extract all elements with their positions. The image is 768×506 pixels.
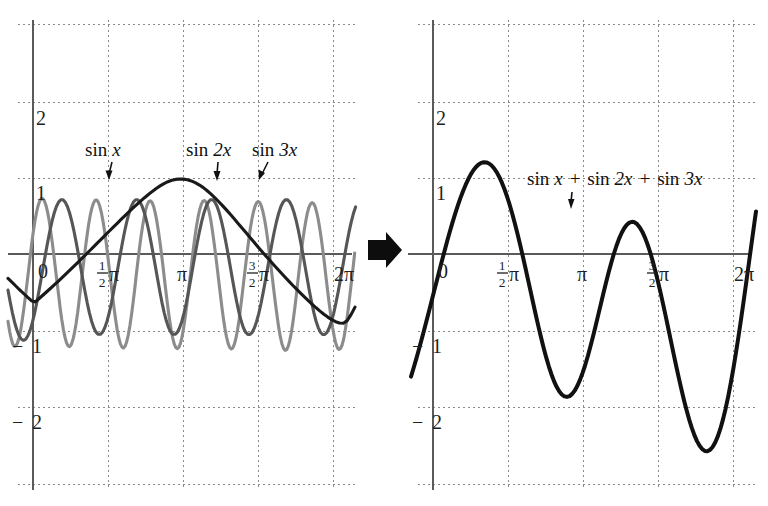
right-ytick-minus2: 2 [432, 411, 442, 433]
left-xtick-three-half-pi-symbol: π [259, 263, 269, 285]
right-panel: 2 1 − 1 − 2 0 1 2 π π 3 2 π 2π [408, 20, 757, 490]
annotation-sum-text: sinx+sin2x+sin3x [527, 168, 703, 189]
left-ytick-minus2-sign: − [12, 411, 23, 433]
right-xtick-pi: π [577, 263, 587, 285]
left-ytick-minus2: 2 [32, 411, 42, 433]
left-ytick-minus1-sign: − [12, 335, 23, 357]
right-xtick-half-pi-denominator: 2 [499, 275, 506, 290]
left-xtick-half-pi-numerator: 1 [99, 258, 106, 273]
annotation-sin-3x: sin3x [252, 139, 298, 180]
right-xtick-three-half-pi-numerator: 3 [649, 258, 656, 273]
right-ytick-minus2-sign: − [412, 411, 423, 433]
right-ytick-minus1: 1 [432, 335, 442, 357]
left-panel: 2 1 − 1 − 2 0 1 2 π π 3 2 π 2π [8, 20, 357, 490]
annotation-sin-x-text: sinx [85, 139, 121, 160]
left-vertical-gridlines [108, 20, 333, 490]
harmonics-figure-svg: 2 1 − 1 − 2 0 1 2 π π 3 2 π 2π [0, 0, 768, 506]
right-xtick-three-half-pi-symbol: π [659, 263, 669, 285]
annotation-sum: sinx+sin2x+sin3x [527, 168, 703, 209]
left-xtick-half-pi-symbol: π [109, 263, 119, 285]
left-xtick-two-pi: 2π [334, 263, 354, 285]
figure-container: 2 1 − 1 − 2 0 1 2 π π 3 2 π 2π [0, 0, 768, 506]
right-xtick-two-pi: 2π [734, 263, 754, 285]
right-xtick-half-pi-numerator: 1 [499, 258, 506, 273]
left-ytick-minus1: 1 [32, 335, 42, 357]
left-xtick-half-pi-denominator: 2 [99, 275, 106, 290]
right-xtick-half-pi-symbol: π [509, 263, 519, 285]
right-ytick-minus1-sign: − [412, 335, 423, 357]
annotation-sin-3x-text: sin3x [252, 139, 298, 160]
right-vertical-gridlines [508, 20, 733, 490]
right-xtick-0: 0 [438, 260, 448, 282]
right-xtick-three-half-pi-denominator: 2 [649, 275, 656, 290]
right-ytick-2: 2 [436, 107, 446, 129]
left-xtick-three-half-pi-numerator: 3 [249, 258, 256, 273]
right-ytick-1: 1 [436, 182, 446, 204]
annotation-sin-2x-text: sin2x [186, 139, 232, 160]
annotation-sin-x: sinx [85, 139, 121, 180]
right-arrow-icon-shape [368, 232, 402, 268]
right-arrow-icon [368, 232, 402, 268]
left-ytick-2: 2 [36, 107, 46, 129]
annotation-sin-2x-arrowhead [214, 171, 221, 181]
left-xtick-0: 0 [38, 260, 48, 282]
annotation-sin-2x: sin2x [186, 139, 232, 181]
left-xtick-pi: π [177, 263, 187, 285]
left-ytick-1: 1 [36, 182, 46, 204]
left-xtick-three-half-pi-denominator: 2 [249, 275, 256, 290]
annotation-sin-x-arrowhead [106, 171, 113, 181]
annotation-sum-arrowhead [568, 199, 575, 209]
